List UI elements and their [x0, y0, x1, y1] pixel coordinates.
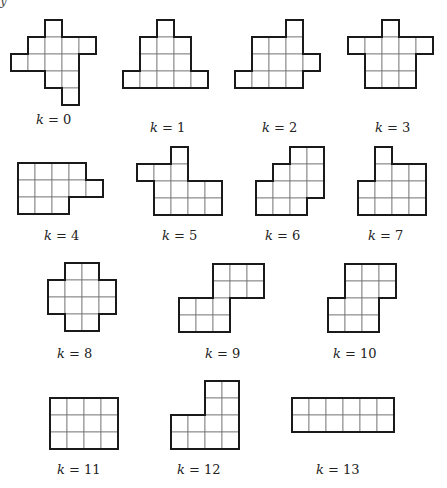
grid-cell	[140, 37, 157, 54]
grid-cell	[35, 180, 52, 197]
grid-cell	[50, 398, 67, 415]
grid-cell	[362, 281, 379, 298]
grid-cell	[409, 181, 426, 198]
grid-cell	[273, 198, 290, 215]
grid-cell	[309, 398, 326, 415]
grid-cell	[18, 197, 35, 214]
grid-cell	[205, 398, 222, 415]
grid-cell	[62, 88, 79, 105]
grid-cell	[382, 71, 399, 88]
grid-cell	[286, 20, 303, 37]
grid-cell	[392, 164, 409, 181]
grid-cell	[174, 54, 191, 71]
grid-cell	[416, 37, 433, 54]
grid-cell	[290, 147, 307, 164]
grid-cell	[171, 432, 188, 449]
grid-cell	[213, 298, 230, 315]
grid-cell	[191, 71, 208, 88]
grid-cell	[392, 198, 409, 215]
grid-cell	[50, 432, 67, 449]
grid-cell	[154, 198, 171, 215]
grid-cell	[154, 164, 171, 181]
grid-cell	[69, 180, 86, 197]
grid-cell	[140, 71, 157, 88]
grid-cell	[205, 381, 222, 398]
grid-cell	[326, 415, 343, 432]
shape-label-k-6: k = 6	[265, 228, 300, 243]
grid-cell	[286, 71, 303, 88]
shape-k-6	[256, 147, 324, 215]
grid-cell	[67, 415, 84, 432]
grid-cell	[365, 37, 382, 54]
grid-cell	[269, 71, 286, 88]
grid-cell	[328, 315, 345, 332]
grid-cell	[45, 20, 62, 37]
shape-k-12	[171, 381, 239, 449]
grid-cell	[375, 147, 392, 164]
grid-cell	[67, 398, 84, 415]
grid-cell	[307, 147, 324, 164]
grid-cell	[290, 181, 307, 198]
grid-cell	[154, 181, 171, 198]
grid-cell	[84, 415, 101, 432]
grid-cell	[11, 54, 28, 71]
shape-k-7	[358, 147, 426, 215]
grid-cell	[157, 20, 174, 37]
grid-cell	[28, 54, 45, 71]
grid-cell	[343, 415, 360, 432]
grid-cell	[67, 432, 84, 449]
grid-cell	[82, 314, 99, 331]
grid-cell	[196, 315, 213, 332]
grid-cell	[79, 37, 96, 54]
grid-cell	[303, 54, 320, 71]
shape-label-k-1: k = 1	[150, 120, 185, 135]
shape-k-2	[235, 20, 320, 88]
grid-cell	[65, 263, 82, 280]
grid-cell	[157, 37, 174, 54]
grid-cell	[247, 264, 264, 281]
shape-k-8	[48, 263, 116, 331]
grid-cell	[409, 164, 426, 181]
grid-cell	[256, 198, 273, 215]
grid-cell	[45, 37, 62, 54]
grid-cell	[345, 315, 362, 332]
grid-cell	[269, 37, 286, 54]
grid-cell	[286, 37, 303, 54]
shape-label-k-8: k = 8	[57, 346, 92, 361]
grid-cell	[345, 281, 362, 298]
grid-cell	[179, 298, 196, 315]
shape-k-9	[179, 264, 264, 332]
grid-cell	[230, 264, 247, 281]
grid-cell	[375, 198, 392, 215]
grid-cell	[379, 264, 396, 281]
grid-cell	[52, 163, 69, 180]
grid-cell	[213, 315, 230, 332]
grid-cell	[18, 180, 35, 197]
shape-label-k-11: k = 11	[57, 462, 101, 477]
grid-cell	[222, 415, 239, 432]
grid-cell	[171, 164, 188, 181]
grid-cell	[230, 281, 247, 298]
grid-cell	[86, 180, 103, 197]
shape-label-k-5: k = 5	[162, 228, 197, 243]
grid-cell	[362, 315, 379, 332]
grid-cell	[375, 181, 392, 198]
grid-cell	[222, 381, 239, 398]
shape-k-4	[18, 163, 103, 214]
grid-cell	[269, 54, 286, 71]
grid-cell	[399, 71, 416, 88]
shape-k-10	[328, 264, 396, 332]
grid-cell	[358, 181, 375, 198]
grid-cell	[18, 163, 35, 180]
grid-cell	[188, 432, 205, 449]
grid-cell	[84, 432, 101, 449]
grid-cell	[382, 20, 399, 37]
grid-cell	[188, 198, 205, 215]
shape-k-13	[292, 398, 394, 432]
grid-cell	[222, 398, 239, 415]
grid-cell	[213, 281, 230, 298]
grid-cell	[365, 54, 382, 71]
grid-cell	[382, 54, 399, 71]
grid-cell	[205, 432, 222, 449]
grid-cell	[360, 415, 377, 432]
